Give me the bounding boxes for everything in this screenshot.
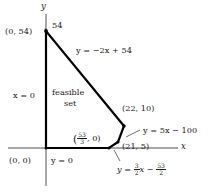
fraction-53-2: 532 (156, 163, 166, 177)
fraction-denominator: 2 (134, 169, 140, 176)
fraction-denominator: 2 (156, 169, 166, 176)
fraction-numerator: 53 (77, 132, 87, 138)
eq-prefix: y = (117, 164, 134, 174)
tick-label-54: 54 (52, 21, 62, 29)
paren-close: , 0) (87, 133, 101, 143)
fraction-3-2: 32 (134, 163, 140, 177)
vertex-dot-0-54 (44, 29, 48, 33)
feasible-set-figure: y x (0, 54) 54 y = −2x + 54 x = 0 feasib… (0, 0, 216, 193)
equation-right-lower-edge: y = 32x − 532 (117, 163, 166, 177)
vertex-label-22-10: (22, 10) (122, 104, 154, 112)
leader-line-5x-100 (126, 130, 140, 137)
eq-mid: x − (140, 164, 157, 174)
x-axis-label: x (181, 141, 186, 151)
fraction-53-3: 533 (77, 132, 87, 146)
vertex-label-53-3-0: (533, 0) (73, 132, 101, 146)
region-label-line1: feasible (52, 88, 84, 96)
vertex-label-0-0: (0, 0) (9, 156, 31, 164)
equation-bottom-edge: y = 0 (51, 156, 73, 164)
leader-line-3-2x (114, 150, 120, 161)
vertex-label-21-5: (21, 5) (122, 142, 149, 150)
equation-top-edge: y = −2x + 54 (76, 46, 132, 54)
vertex-dot-21-5 (117, 141, 120, 144)
y-axis-label: y (41, 1, 46, 11)
region-label-line2: set (64, 99, 76, 107)
equation-right-upper-edge: y = 5x − 100 (143, 126, 197, 134)
equation-left-edge: x = 0 (13, 91, 35, 99)
fraction-numerator: 53 (156, 163, 166, 169)
vertex-label-0-54: (0, 54) (5, 27, 32, 35)
vertex-dot-53-3-0 (108, 147, 111, 150)
vertex-dot-22-10 (122, 124, 125, 127)
fraction-denominator: 3 (77, 138, 87, 145)
fraction-numerator: 3 (134, 163, 140, 169)
vertex-dot-0-0 (45, 147, 48, 150)
